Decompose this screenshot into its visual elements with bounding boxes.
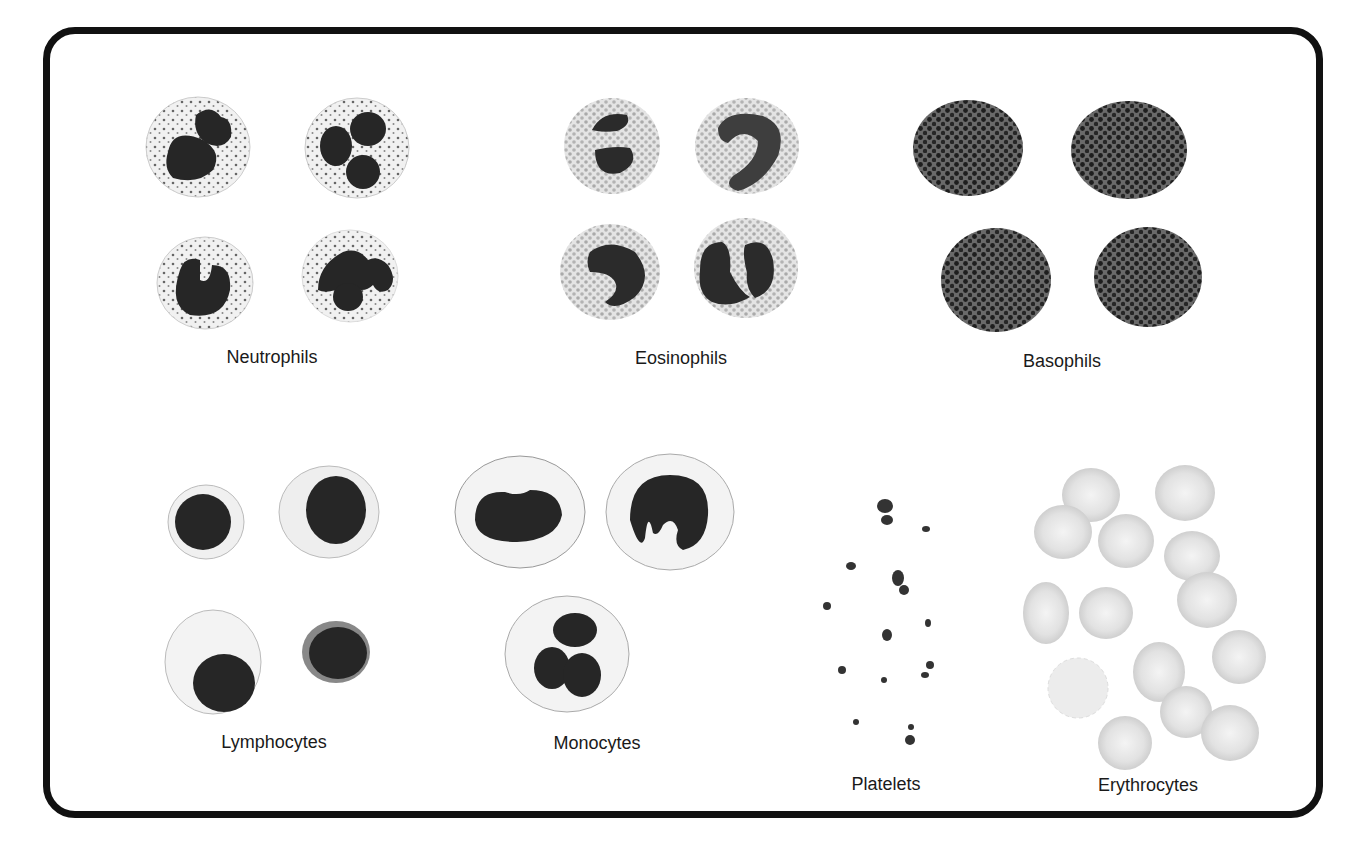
eosinophil-cell	[560, 224, 660, 320]
erythrocytes-group	[1023, 465, 1266, 770]
eosinophil-cell	[564, 98, 660, 194]
basophil-cell	[913, 100, 1023, 196]
lymphocytes-group	[165, 466, 379, 714]
neutrophils-group	[146, 97, 409, 329]
label-lymphocytes: Lymphocytes	[221, 732, 326, 753]
label-platelets: Platelets	[851, 774, 920, 795]
label-basophils: Basophils	[1023, 351, 1101, 372]
label-erythrocytes: Erythrocytes	[1098, 775, 1198, 796]
neutrophil-cell	[305, 98, 409, 198]
lymphocyte-cell	[279, 466, 379, 558]
monocyte-cell	[505, 596, 629, 712]
lymphocyte-cell	[168, 485, 244, 559]
basophil-cell	[1071, 101, 1187, 199]
neutrophil-cell	[146, 97, 250, 197]
cell-illustrations	[0, 0, 1346, 845]
eosinophils-group	[560, 98, 799, 320]
label-neutrophils: Neutrophils	[226, 347, 317, 368]
eosinophil-cell	[694, 218, 798, 318]
eosinophil-cell	[695, 98, 799, 194]
monocyte-cell	[455, 456, 585, 568]
neutrophil-cell	[157, 237, 253, 329]
label-eosinophils: Eosinophils	[635, 348, 727, 369]
monocytes-group	[455, 454, 734, 712]
basophil-cell	[1094, 227, 1202, 327]
monocyte-cell	[606, 454, 734, 570]
basophils-group	[913, 100, 1202, 332]
neutrophil-cell	[302, 230, 398, 322]
basophil-cell	[941, 228, 1051, 332]
label-monocytes: Monocytes	[553, 733, 640, 754]
lymphocyte-cell	[165, 610, 261, 714]
lymphocyte-cell	[302, 621, 370, 683]
platelets-group	[823, 499, 934, 745]
